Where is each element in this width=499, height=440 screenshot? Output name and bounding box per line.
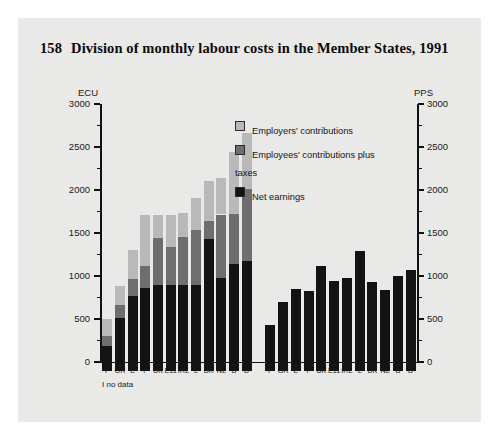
ecu-panel-bars (101, 113, 253, 371)
bar-segment (191, 230, 201, 285)
right-minor-tick (418, 297, 422, 298)
left-axis-unit: ECU (78, 87, 98, 98)
bar-segment (191, 198, 201, 230)
right-minor-tick (418, 168, 422, 169)
right-minor-tick (418, 340, 422, 341)
legend-swatch-net_earnings (235, 187, 245, 197)
left-tick-label-3000: 3000 (50, 99, 90, 109)
right-tick-label-1000: 1000 (427, 271, 448, 281)
bar-segment (380, 290, 390, 371)
right-tick-label-2000: 2000 (427, 185, 448, 195)
figure-title: 158Division of monthly labour costs in t… (40, 40, 470, 57)
left-tick-label-2000: 2000 (50, 185, 90, 195)
bar-segment (153, 238, 163, 285)
chart-legend: Employers' contributionsEmployees' contr… (235, 120, 375, 210)
bar-segment (216, 278, 226, 371)
right-tick-label-2500: 2500 (427, 142, 448, 152)
left-tick-2000 (94, 189, 100, 190)
left-tick-label-1000: 1000 (50, 271, 90, 281)
bar-segment (102, 319, 112, 335)
legend-label-net_earnings: Net earnings (252, 192, 305, 202)
bar-segment (304, 291, 314, 371)
left-tick-0 (94, 361, 100, 362)
left-minor-tick (97, 211, 101, 212)
figure-page: 158Division of monthly labour costs in t… (18, 18, 481, 422)
right-tick-0 (418, 361, 424, 362)
bar-segment (153, 215, 163, 237)
right-tick-1000 (418, 275, 424, 276)
left-minor-tick (97, 254, 101, 255)
bar-segment (140, 215, 150, 267)
bar-segment (406, 270, 416, 371)
left-minor-tick (97, 168, 101, 169)
left-tick-label-500: 500 (50, 314, 90, 324)
left-tick-1000 (94, 275, 100, 276)
left-tick-label-1500: 1500 (50, 228, 90, 238)
bar-segment (204, 181, 214, 221)
right-minor-tick (418, 254, 422, 255)
bar-segment (128, 250, 138, 279)
left-minor-tick (97, 340, 101, 341)
left-minor-tick (97, 297, 101, 298)
x-axis-label-D: D (400, 366, 422, 375)
right-axis-unit: PPS (414, 87, 433, 98)
x-axis-label-D: D (236, 366, 258, 375)
legend-swatch-employees_taxes (235, 145, 245, 155)
bar-segment (115, 286, 125, 305)
right-tick-3000 (418, 103, 424, 104)
bar-segment (166, 215, 176, 247)
legend-item-net_earnings: Net earnings (235, 186, 375, 204)
bar-segment (204, 221, 214, 239)
bar-segment (166, 247, 176, 285)
right-tick-label-1500: 1500 (427, 228, 448, 238)
right-tick-label-0: 0 (427, 357, 432, 367)
left-tick-label-2500: 2500 (50, 142, 90, 152)
legend-label-employers: Employers' contributions (252, 126, 353, 136)
bar-segment (102, 336, 112, 346)
right-minor-tick (418, 211, 422, 212)
figure-number: 158 (40, 40, 62, 56)
right-tick-1500 (418, 232, 424, 233)
bar-segment (153, 285, 163, 371)
bar-segment (178, 237, 188, 285)
left-minor-tick (97, 125, 101, 126)
right-tick-label-3000: 3000 (427, 99, 448, 109)
bar-segment (115, 305, 125, 318)
bar-segment (329, 281, 339, 371)
bar-segment (216, 215, 226, 279)
left-tick-500 (94, 318, 100, 319)
legend-swatch-employers (235, 121, 245, 131)
bar-segment (242, 261, 252, 371)
right-tick-2500 (418, 146, 424, 147)
legend-label-employees_taxes: Employees' contributions plus taxes (235, 150, 375, 178)
bar-segment (204, 239, 214, 371)
chart-plot-area: ECU PPS 300025002000150010005000 3000250… (82, 104, 436, 372)
bar-segment (140, 288, 150, 371)
right-tick-500 (418, 318, 424, 319)
left-tick-2500 (94, 146, 100, 147)
left-tick-1500 (94, 232, 100, 233)
bar-segment (355, 251, 365, 371)
legend-item-employers: Employers' contributions (235, 120, 375, 138)
bar-segment (367, 282, 377, 371)
legend-item-employees_taxes: Employees' contributions plus taxes (235, 144, 375, 180)
bar-segment (115, 318, 125, 371)
bar-segment (178, 213, 188, 237)
right-tick-2000 (418, 189, 424, 190)
bar-segment (265, 325, 275, 371)
bar-segment (216, 178, 226, 215)
bar-segment (166, 285, 176, 371)
bar-segment (278, 302, 288, 371)
bar-segment (342, 278, 352, 371)
chart-footnote: I no data (102, 380, 133, 389)
bar-segment (140, 266, 150, 288)
bar-segment (128, 296, 138, 371)
left-tick-3000 (94, 103, 100, 104)
bar-segment (229, 214, 239, 263)
bar-segment (316, 266, 326, 371)
bar-segment (393, 276, 403, 371)
right-minor-tick (418, 125, 422, 126)
left-tick-label-0: 0 (50, 357, 90, 367)
bar-segment (291, 289, 301, 371)
bar-segment (229, 264, 239, 372)
